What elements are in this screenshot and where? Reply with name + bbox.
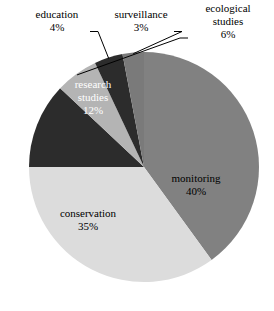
slice-label-surveillance-name: surveillance: [114, 8, 167, 20]
slice-label-monitoring-name: monitoring: [172, 172, 221, 184]
pie-chart-svg: monitoring40%conservation35%researchstud…: [0, 0, 274, 311]
slice-label-research-studies-percent: 12%: [83, 104, 103, 116]
slice-label-monitoring-percent: 40%: [186, 185, 206, 197]
slice-label-research-studies-name: research: [75, 78, 112, 90]
slice-label-ecological-studies-name: studies: [213, 15, 244, 27]
slice-label-surveillance-percent: 3%: [134, 21, 149, 33]
slice-label-education-percent: 4%: [50, 21, 65, 33]
slice-label-ecological-studies-percent: 6%: [221, 28, 236, 40]
slice-label-research-studies-name: studies: [78, 91, 109, 103]
pie-slices-group: [29, 52, 259, 282]
slice-label-conservation-name: conservation: [60, 207, 117, 219]
slice-label-conservation-percent: 35%: [78, 220, 98, 232]
slice-label-education-name: education: [36, 8, 79, 20]
pie-chart: monitoring40%conservation35%researchstud…: [0, 0, 274, 311]
slice-label-ecological-studies-name: ecological: [205, 2, 250, 14]
